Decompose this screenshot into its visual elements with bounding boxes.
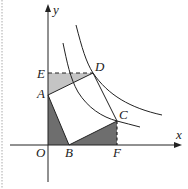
- inner-hyperbola-curve: [63, 43, 140, 127]
- point-label-D: D: [94, 59, 105, 74]
- y-axis-arrow-icon: [45, 4, 51, 12]
- x-axis-label: x: [175, 127, 182, 142]
- y-axis-label: y: [51, 2, 59, 17]
- point-label-C: C: [119, 107, 128, 122]
- x-axis-arrow-icon: [174, 142, 182, 148]
- geometry-diagram: y x O E A B F C D: [0, 0, 188, 189]
- point-label-F: F: [112, 145, 122, 160]
- outer-hyperbola-curve: [76, 25, 162, 115]
- point-label-B: B: [65, 145, 73, 160]
- point-label-E: E: [36, 66, 45, 81]
- point-label-A: A: [36, 86, 45, 101]
- point-label-O: O: [36, 145, 46, 160]
